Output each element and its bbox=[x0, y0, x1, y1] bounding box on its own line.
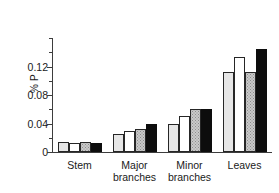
bar bbox=[58, 142, 69, 152]
bar-group bbox=[168, 38, 212, 152]
bar bbox=[179, 116, 190, 152]
x-axis-line bbox=[52, 152, 272, 153]
bar bbox=[234, 57, 245, 152]
x-category-label: Minor branches bbox=[162, 159, 217, 183]
y-tick-label: 0 bbox=[14, 146, 48, 158]
bar bbox=[223, 72, 234, 152]
bar bbox=[80, 142, 91, 152]
bar bbox=[124, 131, 135, 152]
y-tick-major bbox=[47, 152, 52, 153]
bar-group bbox=[113, 38, 157, 152]
bar-group bbox=[58, 38, 102, 152]
bar bbox=[91, 143, 102, 152]
bar-group bbox=[223, 38, 267, 152]
bar bbox=[256, 49, 267, 152]
y-tick-label: 0.08 bbox=[14, 89, 48, 101]
bar bbox=[201, 109, 212, 152]
x-category-label: Stem bbox=[52, 159, 107, 171]
bar bbox=[168, 124, 179, 153]
x-category-label: Leaves bbox=[217, 159, 272, 171]
y-tick-label: 0.12 bbox=[14, 61, 48, 73]
bar bbox=[69, 143, 80, 152]
y-tick-label-list: 00.040.080.12 bbox=[14, 0, 48, 193]
bar-chart: % P 00.040.080.12 StemMajor branchesMino… bbox=[0, 0, 279, 193]
plot-area bbox=[52, 38, 272, 152]
bar bbox=[245, 72, 256, 152]
bar bbox=[135, 129, 146, 153]
bar bbox=[190, 109, 201, 152]
bar bbox=[146, 124, 157, 152]
y-tick-label: 0.04 bbox=[14, 118, 48, 130]
bar bbox=[113, 134, 124, 152]
x-category-label: Major branches bbox=[107, 159, 162, 183]
